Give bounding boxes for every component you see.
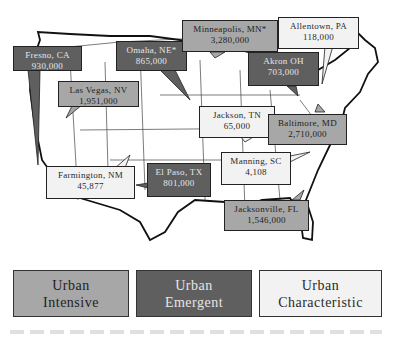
callout-minneapolis: Minneapolis, MN* 3,280,000 (182, 20, 278, 52)
callout-baltimore: Baltimore, MD 2,710,000 (268, 114, 347, 145)
legend-label-line1: Urban (52, 277, 90, 294)
callout-city: Farmington, NM (49, 170, 132, 181)
legend-urban-emergent: Urban Emergent (136, 270, 252, 317)
callout-city: Manning, SC (224, 156, 288, 167)
callout-population: 4,108 (224, 167, 288, 178)
callout-population: 2,710,000 (271, 129, 344, 140)
legend-label-line2: Characteristic (278, 294, 363, 311)
callout-population: 801,000 (150, 178, 208, 189)
callout-city: Fresno, CA (16, 50, 79, 61)
figure-caption-illegible (10, 330, 382, 334)
callout-jacksonville: Jacksonville, FL 1,546,000 (224, 200, 309, 231)
callout-akron: Akron OH 703,000 (248, 52, 319, 86)
callout-population: 1,951,000 (61, 96, 136, 107)
callout-omaha: Omaha, NE* 865,000 (116, 41, 187, 71)
callout-city: Baltimore, MD (271, 118, 344, 129)
callout-manning: Manning, SC 4,108 (221, 152, 291, 185)
callout-population: 45,877 (49, 181, 132, 192)
legend-label-line1: Urban (302, 277, 340, 294)
legend-urban-characteristic: Urban Characteristic (259, 270, 382, 317)
callout-farmington: Farmington, NM 45,877 (46, 166, 135, 199)
legend-label-line2: Emergent (165, 294, 223, 311)
callout-city: Jackson, TN (202, 110, 272, 121)
legend-label-line2: Intensive (43, 294, 99, 311)
callout-el-paso: El Paso, TX 801,000 (147, 163, 211, 197)
callout-city: Akron OH (251, 56, 316, 67)
callout-city: Minneapolis, MN* (185, 24, 275, 35)
callout-population: 703,000 (251, 67, 316, 78)
callout-population: 3,280,000 (185, 35, 275, 46)
callout-city: Jacksonville, FL (227, 204, 306, 215)
callout-city: El Paso, TX (150, 167, 208, 178)
callout-population: 65,000 (202, 121, 272, 132)
legend-urban-intensive: Urban Intensive (13, 270, 129, 317)
callout-population: 1,546,000 (227, 215, 306, 226)
callout-population: 118,000 (281, 32, 356, 43)
callout-population: 930,000 (16, 61, 79, 72)
callout-population: 865,000 (119, 56, 184, 67)
callout-allentown: Allentown, PA 118,000 (278, 17, 359, 49)
callout-las-vegas: Las Vegas, NV 1,951,000 (58, 81, 139, 107)
callout-fresno: Fresno, CA 930,000 (13, 46, 82, 71)
callout-city: Las Vegas, NV (61, 85, 136, 96)
callout-jackson: Jackson, TN 65,000 (199, 106, 275, 138)
legend-label-line1: Urban (175, 277, 213, 294)
callout-city: Allentown, PA (281, 21, 356, 32)
callout-city: Omaha, NE* (119, 45, 184, 56)
